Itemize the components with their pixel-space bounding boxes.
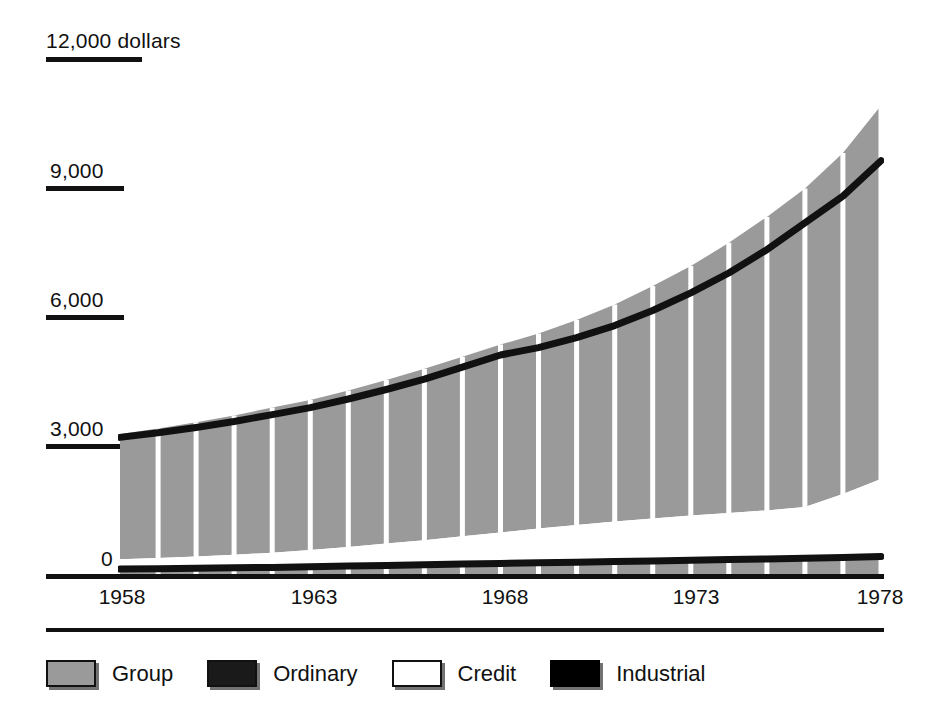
legend-item-credit[interactable]: Credit: [392, 660, 517, 687]
legend-swatch-industrial-icon: [550, 660, 600, 687]
x-tick-label-1958: 1958: [80, 586, 164, 607]
legend-label-ordinary: Ordinary: [273, 661, 357, 687]
legend-divider: [46, 628, 884, 632]
legend-swatch-group-icon: [46, 660, 96, 687]
legend-label-industrial: Industrial: [616, 661, 705, 687]
legend-swatch-ordinary-icon: [207, 660, 257, 687]
legend-swatch-credit-icon: [392, 660, 442, 687]
chart-legend: Group Ordinary Credit Industrial: [46, 660, 739, 687]
legend-label-group: Group: [112, 661, 173, 687]
legend-label-credit: Credit: [458, 661, 517, 687]
legend-item-industrial[interactable]: Industrial: [550, 660, 705, 687]
x-tick-label-1963: 1963: [272, 586, 356, 607]
x-tick-label-1973: 1973: [654, 586, 738, 607]
x-tick-label-1978: 1978: [838, 586, 922, 607]
chart-figure: 12,000 dollars 9,000 6,000 3,000 0 1958 …: [0, 0, 947, 705]
legend-item-ordinary[interactable]: Ordinary: [207, 660, 357, 687]
x-axis-baseline: [46, 574, 884, 579]
x-tick-label-1968: 1968: [463, 586, 547, 607]
legend-item-group[interactable]: Group: [46, 660, 173, 687]
